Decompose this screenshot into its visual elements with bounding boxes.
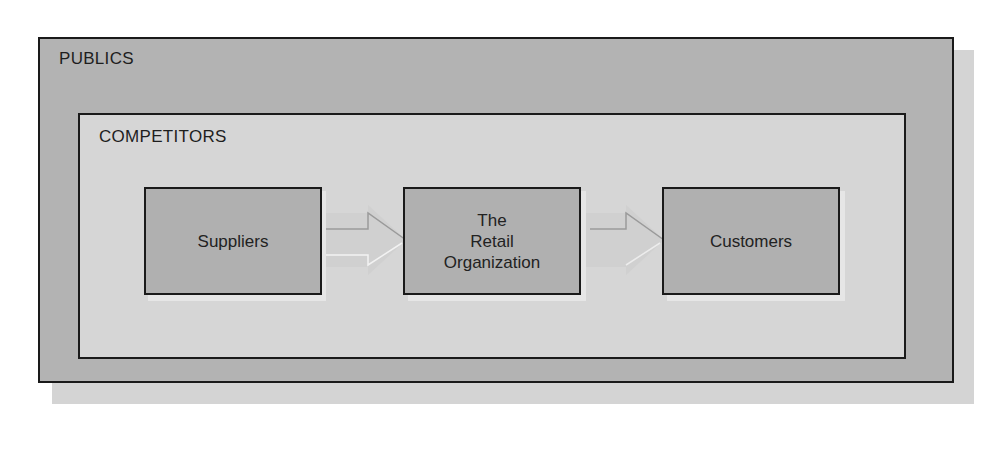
arrow-suppliers-to-retail-icon [322,205,408,275]
competitors-box: COMPETITORS Suppliers The Retail Organiz… [78,113,906,359]
node-customers: Customers [662,187,840,295]
node-customers-label: Customers [710,231,792,252]
node-retail-organization: The Retail Organization [403,187,581,295]
publics-box: PUBLICS COMPETITORS Suppliers The Retail… [38,37,954,383]
arrow-retail-to-customers-icon [580,205,666,275]
node-suppliers-label: Suppliers [198,231,269,252]
competitors-label: COMPETITORS [99,127,227,147]
node-retail-organization-label: The Retail Organization [444,210,540,273]
node-suppliers: Suppliers [144,187,322,295]
publics-label: PUBLICS [59,49,134,69]
